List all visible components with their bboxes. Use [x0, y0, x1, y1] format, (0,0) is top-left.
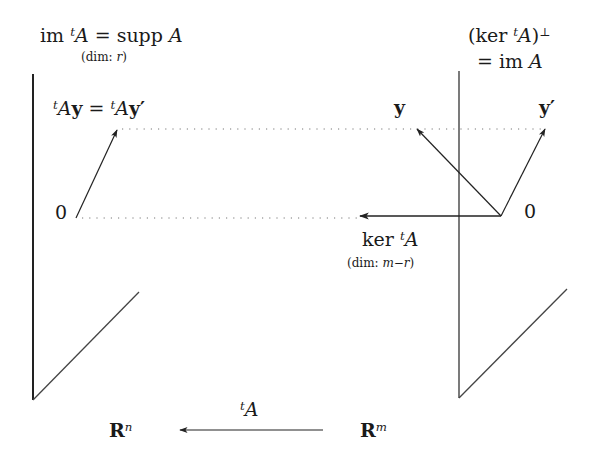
perp-symbol: ⊥ — [539, 25, 550, 39]
matrix-symbol: A — [115, 97, 129, 119]
dim-variable: m−r — [382, 256, 409, 270]
ker-operator: ker — [362, 228, 400, 250]
matrix-symbol: A — [169, 24, 183, 46]
im-operator: = im — [477, 50, 529, 72]
right-space-title-line1: (ker tA)⊥ — [468, 26, 550, 45]
dim-prefix: (dim: — [81, 50, 116, 64]
vector-y-prime-label: y′ — [539, 98, 555, 117]
left-space-title: im tA = supp A — [40, 26, 183, 45]
right-plane-diagonal-edge — [459, 289, 567, 398]
vector-symbol: y′ — [129, 97, 145, 119]
supp-operator: supp — [117, 24, 163, 46]
left-origin-label: 0 — [55, 203, 67, 222]
right-plane — [459, 71, 567, 398]
dimension-exponent: m — [376, 420, 387, 434]
dim-suffix: ) — [410, 256, 415, 270]
matrix-symbol: A — [58, 97, 72, 119]
image-vector-arrow — [76, 130, 117, 218]
left-plane-diagonal-edge — [33, 292, 139, 400]
dim-prefix: (dim: — [347, 256, 382, 270]
kernel-label: ker tA — [362, 230, 418, 249]
matrix-symbol: A — [518, 24, 532, 46]
left-plane — [33, 74, 139, 400]
matrix-symbol: A — [75, 24, 89, 46]
ker-operator: (ker — [468, 24, 513, 46]
dim-suffix: ) — [122, 50, 127, 64]
equals-sign: = — [95, 24, 111, 46]
vector-symbol: y — [71, 97, 82, 119]
codomain-space-label: Rm — [360, 421, 387, 440]
image-equation: tAy = tAy′ — [53, 99, 145, 118]
kernel-dim-label: (dim: m−r) — [347, 257, 414, 269]
right-origin-label: 0 — [524, 202, 536, 221]
matrix-symbol: A — [405, 228, 419, 250]
reals-symbol: R — [360, 419, 376, 441]
im-operator: im — [40, 24, 64, 46]
left-dim-label: (dim: r) — [81, 51, 127, 63]
map-label: tA — [240, 400, 258, 419]
vector-y-label: y — [394, 98, 405, 117]
domain-space-label: Rn — [109, 421, 132, 440]
equals-sign: = — [89, 97, 105, 119]
dimension-exponent: n — [125, 420, 133, 434]
reals-symbol: R — [109, 419, 125, 441]
matrix-symbol: A — [245, 398, 259, 420]
vector-y-prime-arrow — [501, 129, 545, 216]
right-space-title-line2: = im A — [477, 52, 543, 71]
matrix-symbol: A — [529, 50, 543, 72]
